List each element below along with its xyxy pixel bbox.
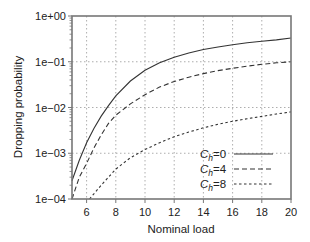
x-tick-label: 16 (226, 206, 238, 218)
grid-lines (72, 16, 291, 199)
x-tick-label: 18 (256, 206, 268, 218)
legend: Ch=0Ch=4Ch=8 (200, 148, 273, 193)
chart: 681012141618201e+001e−011e−021e−031e−04 … (0, 0, 310, 242)
y-axis-label: Dropping probability (12, 56, 24, 159)
x-tick-label: 14 (197, 206, 209, 218)
legend-label-0: Ch=0 (200, 148, 226, 163)
legend-label-2: Ch=8 (200, 178, 226, 193)
x-tick-label: 10 (139, 206, 151, 218)
y-tick-label: 1e−03 (35, 147, 66, 159)
y-tick-label: 1e−02 (35, 102, 66, 114)
series-line-0 (72, 38, 291, 181)
y-tick-label: 1e−01 (35, 56, 66, 68)
legend-label-1: Ch=4 (200, 163, 227, 178)
y-tick-label: 1e+00 (35, 10, 66, 22)
x-tick-label: 6 (84, 206, 90, 218)
x-tick-label: 8 (113, 206, 119, 218)
y-tick-label: 1e−04 (35, 193, 66, 205)
x-axis-label: Nominal load (147, 223, 214, 235)
axes (68, 16, 291, 203)
series-line-1 (72, 62, 291, 199)
x-tick-label: 12 (168, 206, 180, 218)
x-tick-label: 20 (285, 206, 297, 218)
data-series (72, 38, 291, 199)
series-line-2 (90, 112, 292, 199)
